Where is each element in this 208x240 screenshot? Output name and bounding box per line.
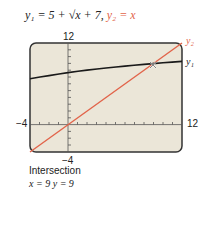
y2-curve-label: y₂ [186, 35, 194, 46]
intersection-label: Intersection [29, 165, 81, 176]
y1-curve-label: y₁ [186, 56, 194, 67]
intersection-coords: x = 9 y = 9 [29, 178, 74, 189]
